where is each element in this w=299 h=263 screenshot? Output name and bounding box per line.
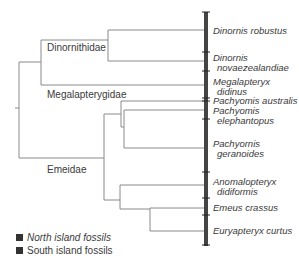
species-label: Dinornis novaezealandiae bbox=[213, 53, 289, 73]
species-label: Megalapteryx didinus bbox=[213, 77, 270, 97]
species-label: Emeus crassus bbox=[213, 203, 278, 213]
species-name: Euryapteryx curtus bbox=[213, 225, 292, 236]
species-name-line2: elephantopus bbox=[213, 116, 274, 126]
species-name-line2: didiformis bbox=[213, 187, 276, 197]
species-label: Euryapteryx curtus bbox=[213, 226, 292, 236]
cladogram-tree bbox=[0, 0, 299, 263]
legend-label: South island fossils bbox=[27, 245, 113, 256]
species-axis-bar bbox=[204, 12, 208, 246]
legend-swatch-icon bbox=[16, 234, 23, 241]
species-name-line2: geranoides bbox=[213, 149, 264, 159]
clade-label-emeidae: Emeidae bbox=[47, 164, 86, 175]
legend-label: North island fossils bbox=[27, 232, 111, 243]
species-label: Pachyornis geranoides bbox=[213, 139, 264, 159]
legend-item-south: South island fossils bbox=[16, 245, 113, 256]
legend-item-north: North island fossils bbox=[16, 232, 111, 243]
species-label: Dinornis robustus bbox=[213, 26, 287, 36]
species-name-line2: novaezealandiae bbox=[213, 63, 289, 73]
legend-swatch-icon bbox=[16, 247, 23, 254]
clade-label-dinornithidae: Dinornithidae bbox=[47, 42, 106, 53]
species-label: Pachyomis elephantopus bbox=[213, 106, 274, 126]
clade-label-megalapterygidae: Megalapterygidae bbox=[47, 89, 127, 100]
species-label: Anomalopteryx didiformis bbox=[213, 177, 276, 197]
species-name: Dinornis robustus bbox=[213, 25, 287, 36]
species-name: Emeus crassus bbox=[213, 202, 278, 213]
